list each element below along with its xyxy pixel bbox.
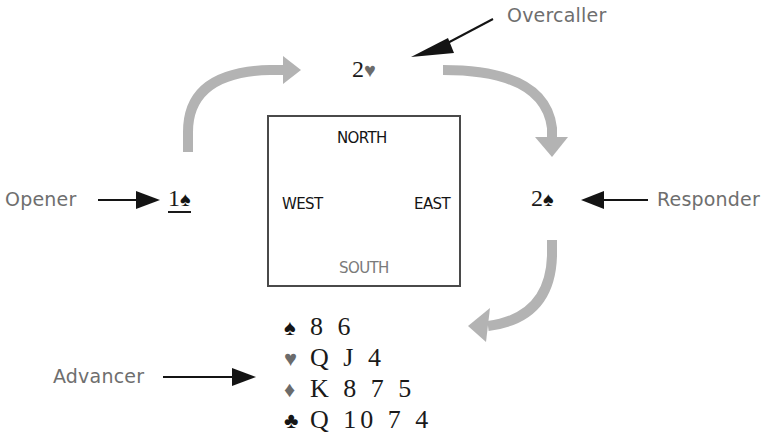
overcaller-label: Overcaller [507, 4, 606, 26]
pointer-arrow-responder [581, 191, 648, 209]
pointer-arrow-advancer [163, 368, 256, 386]
spade-icon: ♠ [543, 188, 554, 210]
overcaller-bid: 2♥ [352, 56, 376, 83]
flow-arrow-overcaller-to-responder [443, 70, 568, 157]
pointer-arrow-overcaller [411, 19, 493, 57]
diamond-icon: ♦ [284, 375, 310, 405]
flow-arrow-responder-to-advancer [468, 240, 552, 342]
advancer-hand: ♠8 6 ♥Q J 4 ♦K 8 7 5 ♣Q 10 7 4 [284, 312, 432, 436]
compass-table-box: NORTH WEST EAST SOUTH [267, 115, 461, 287]
responder-label: Responder [657, 188, 760, 210]
responder-bid: 2♠ [531, 185, 554, 212]
hand-row-spades: ♠8 6 [284, 312, 432, 343]
compass-north: NORTH [337, 129, 387, 147]
diamond-cards: K 8 7 5 [310, 374, 415, 403]
opener-label: Opener [5, 188, 76, 210]
compass-west: WEST [282, 195, 323, 213]
opener-bid-level: 1 [168, 185, 180, 211]
hand-row-clubs: ♣Q 10 7 4 [284, 405, 432, 436]
club-cards: Q 10 7 4 [310, 405, 432, 434]
overcaller-bid-level: 2 [352, 56, 364, 82]
heart-icon: ♥ [284, 344, 310, 374]
advancer-label: Advancer [53, 365, 144, 387]
hand-row-diamonds: ♦K 8 7 5 [284, 374, 432, 405]
pointer-arrow-opener [98, 191, 160, 209]
spade-cards: 8 6 [310, 312, 355, 341]
spade-icon: ♠ [180, 188, 191, 210]
spade-icon: ♠ [284, 313, 310, 343]
hand-row-hearts: ♥Q J 4 [284, 343, 432, 374]
opener-bid: 1♠ [168, 185, 191, 212]
heart-icon: ♥ [364, 59, 376, 81]
compass-east: EAST [414, 195, 450, 213]
responder-bid-level: 2 [531, 185, 543, 211]
club-icon: ♣ [284, 406, 310, 436]
heart-cards: Q J 4 [310, 343, 385, 372]
compass-south: SOUTH [339, 259, 389, 277]
